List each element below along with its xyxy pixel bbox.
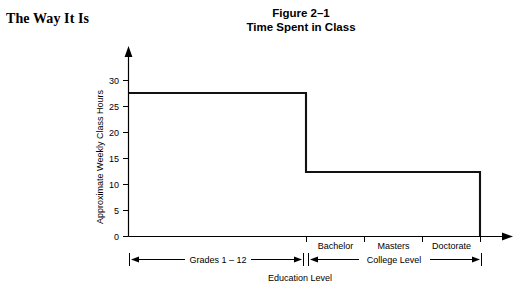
span-college: College Level	[309, 253, 482, 266]
y-tick-label-5: 5	[114, 206, 119, 216]
y-tick-marks	[123, 81, 129, 237]
x-axis-title: Education Level	[268, 273, 332, 283]
y-tick-label-0: 0	[114, 232, 119, 242]
y-tick-label-15: 15	[109, 154, 119, 164]
category-label-masters: Masters	[377, 241, 410, 251]
y-axis-arrowhead	[125, 46, 133, 57]
x-axis	[129, 233, 514, 241]
span-grades-right-arrowhead	[294, 256, 302, 262]
category-label-bachelor: Bachelor	[318, 241, 354, 251]
y-tick-label-30: 30	[109, 76, 119, 86]
span-college-left-arrowhead	[310, 256, 318, 262]
y-tick-label-25: 25	[109, 102, 119, 112]
y-axis-title: Approximate Weekly Class Hours	[95, 90, 105, 224]
y-tick-labels: 30 25 20 15 10 5 0	[109, 76, 119, 242]
span-label-college: College Level	[367, 255, 422, 265]
y-tick-label-10: 10	[109, 180, 119, 190]
y-tick-label-20: 20	[109, 128, 119, 138]
data-step-line	[129, 93, 480, 236]
figure-page: The Way It Is Figure 2–1 Time Spent in C…	[0, 0, 529, 291]
span-grades: Grades 1 – 12	[130, 253, 304, 266]
span-grades-left-arrowhead	[131, 256, 139, 262]
category-label-doctorate: Doctorate	[432, 241, 471, 251]
y-axis	[125, 46, 133, 237]
x-category-labels: Bachelor Masters Doctorate	[318, 241, 471, 251]
chart-canvas: 30 25 20 15 10 5 0 Approximate Weekly Cl…	[0, 0, 529, 291]
span-label-grades: Grades 1 – 12	[189, 255, 246, 265]
span-college-right-arrowhead	[472, 256, 480, 262]
x-axis-arrowhead	[502, 233, 513, 241]
